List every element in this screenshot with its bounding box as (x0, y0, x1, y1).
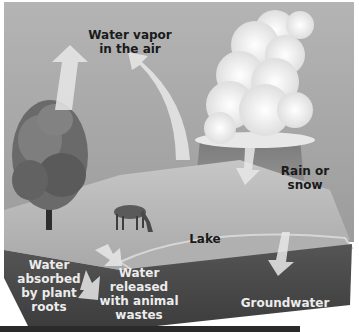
label-groundwater: Groundwater (230, 296, 340, 310)
water-cycle-diagram: Water vapor in the air Rain or snow Lake… (0, 0, 359, 332)
label-water-absorbed: Water absorbed by plant roots (14, 258, 84, 314)
label-lake: Lake (180, 232, 230, 246)
label-water-released: Water released with animal wastes (94, 266, 184, 322)
bottom-bar (0, 326, 300, 332)
label-rain-or-snow: Rain or snow (273, 164, 337, 192)
label-water-vapor: Water vapor in the air (70, 28, 190, 56)
